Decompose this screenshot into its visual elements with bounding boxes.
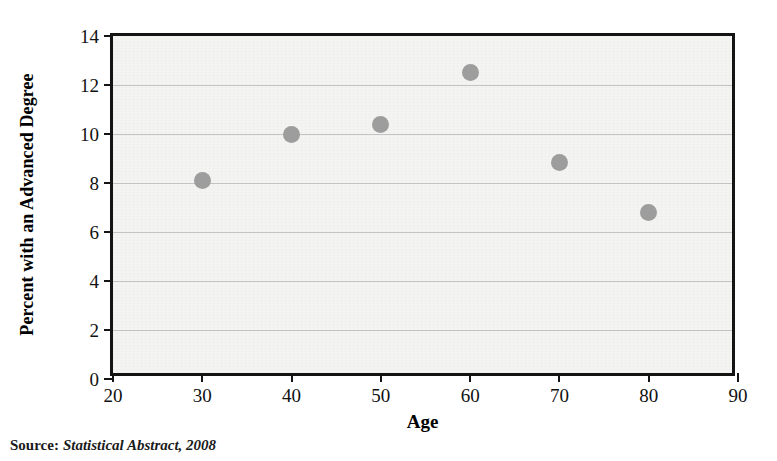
y-tick-mark xyxy=(104,133,113,135)
y-tick-mark xyxy=(104,280,113,282)
y-tick-mark xyxy=(104,84,113,86)
x-tick-label: 40 xyxy=(282,386,301,405)
y-tick-label: 14 xyxy=(80,27,99,46)
x-tick-mark xyxy=(291,373,293,382)
gridline xyxy=(113,330,732,331)
x-tick-label: 30 xyxy=(193,386,212,405)
x-tick-mark xyxy=(648,373,650,382)
plot-inner: 02468101214 2030405060708090 xyxy=(113,36,732,373)
y-axis-title: Percent with an Advanced Degree xyxy=(14,33,40,376)
data-point xyxy=(194,172,211,189)
x-tick-mark xyxy=(112,373,114,382)
x-tick-label: 90 xyxy=(729,386,748,405)
x-tick-mark xyxy=(380,373,382,382)
x-tick-mark xyxy=(737,373,739,382)
y-tick-mark xyxy=(104,329,113,331)
y-tick-mark xyxy=(104,182,113,184)
source-title: Statistical Abstract, 2008 xyxy=(63,437,216,453)
source-caption: Source:Statistical Abstract, 2008 xyxy=(10,437,216,454)
y-tick-label: 10 xyxy=(80,125,99,144)
paper-texture xyxy=(113,36,732,373)
data-point xyxy=(551,154,568,171)
data-point xyxy=(640,204,657,221)
data-point xyxy=(372,116,389,133)
x-tick-label: 60 xyxy=(461,386,480,405)
gridline xyxy=(113,85,732,86)
x-tick-mark xyxy=(469,373,471,382)
y-tick-label: 2 xyxy=(90,321,100,340)
gridline xyxy=(113,232,732,233)
x-tick-mark xyxy=(558,373,560,382)
gridline xyxy=(113,134,732,135)
y-tick-label: 12 xyxy=(80,76,99,95)
data-point xyxy=(283,126,300,143)
x-tick-label: 50 xyxy=(371,386,390,405)
y-tick-label: 4 xyxy=(90,272,100,291)
y-tick-label: 6 xyxy=(90,223,100,242)
x-axis-title: Age xyxy=(110,411,735,433)
y-tick-label: 8 xyxy=(90,174,100,193)
y-tick-mark xyxy=(104,231,113,233)
data-point xyxy=(462,64,479,81)
scatter-plot-figure: 02468101214 2030405060708090 Percent wit… xyxy=(0,0,777,461)
x-tick-label: 70 xyxy=(550,386,569,405)
y-tick-mark xyxy=(104,35,113,37)
x-tick-mark xyxy=(201,373,203,382)
y-tick-label: 0 xyxy=(90,370,100,389)
gridline xyxy=(113,281,732,282)
x-tick-label: 80 xyxy=(639,386,658,405)
x-tick-label: 20 xyxy=(104,386,123,405)
source-prefix: Source: xyxy=(10,437,59,453)
plot-area: 02468101214 2030405060708090 xyxy=(110,33,735,376)
